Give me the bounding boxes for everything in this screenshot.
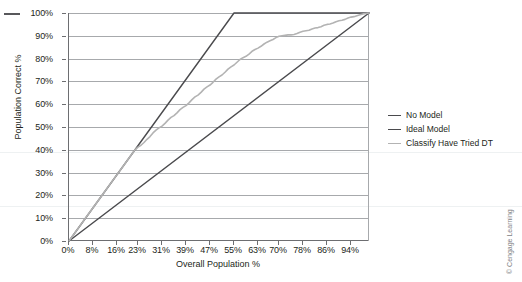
y-axis-tick-label: 60% xyxy=(1,100,53,109)
x-axis-tick-mark xyxy=(233,241,234,245)
y-axis-tick-mark xyxy=(62,173,66,174)
plot-area xyxy=(68,13,368,241)
y-axis-tick-mark xyxy=(62,81,66,82)
y-axis-tick-label: 10% xyxy=(1,214,53,223)
y-axis-tick-mark xyxy=(62,36,66,37)
y-axis-tick-mark xyxy=(62,59,66,60)
copyright-credit: © Cengage Learning xyxy=(506,164,514,274)
y-axis-tick-mark xyxy=(62,218,66,219)
legend-swatch-icon xyxy=(388,115,401,116)
y-axis-tick-mark xyxy=(62,104,66,105)
x-axis-tick-mark xyxy=(92,241,93,245)
chart-figure: 0%10%20%30%40%50%60%70%80%90%100% Popula… xyxy=(0,0,522,282)
legend-label: Classify Have Tried DT xyxy=(406,138,493,148)
x-axis-tick-label: 94% xyxy=(333,245,367,255)
x-axis-tick-mark xyxy=(257,241,258,245)
x-axis-tick-mark xyxy=(209,241,210,245)
legend-swatch-icon xyxy=(388,143,401,144)
x-axis-tick-mark xyxy=(185,241,186,245)
y-axis-title: Population Correct % xyxy=(13,27,23,167)
y-axis-tick-mark xyxy=(62,150,66,151)
y-axis-tick-mark xyxy=(62,13,66,14)
y-axis-tick-label: 50% xyxy=(1,123,53,132)
y-axis: 0%10%20%30%40%50%60%70%80%90%100% xyxy=(0,13,62,241)
legend-swatch-icon xyxy=(388,129,401,130)
y-axis-tick-label: 80% xyxy=(1,55,53,64)
chart-legend: No ModelIdeal ModelClassify Have Tried D… xyxy=(388,108,518,150)
y-axis-tick-label: 20% xyxy=(1,191,53,200)
y-axis-tick-label: 90% xyxy=(1,32,53,41)
plot-svg xyxy=(69,13,369,241)
legend-entry[interactable]: No Model xyxy=(388,108,518,122)
x-axis-tick-mark xyxy=(116,241,117,245)
y-axis-tick-label: 0% xyxy=(1,237,53,246)
x-axis-tick-mark xyxy=(68,241,69,245)
y-axis-tick-label: 70% xyxy=(1,77,53,86)
x-axis-tick-mark xyxy=(278,241,279,245)
legend-label: Ideal Model xyxy=(406,124,450,134)
y-axis-tick-mark xyxy=(62,241,66,242)
x-axis-tick-mark xyxy=(161,241,162,245)
x-axis-title: Overall Population % xyxy=(68,259,368,269)
y-axis-tick-mark xyxy=(62,195,66,196)
x-axis-tick-mark xyxy=(137,241,138,245)
x-axis-tick-mark xyxy=(350,241,351,245)
legend-entry[interactable]: Classify Have Tried DT xyxy=(388,136,518,150)
legend-entry[interactable]: Ideal Model xyxy=(388,122,518,136)
y-axis-tick-label: 40% xyxy=(1,146,53,155)
y-axis-tick-label: 30% xyxy=(1,169,53,178)
x-axis: 0%8%16%23%31%39%47%55%63%70%78%86%94% xyxy=(68,245,368,259)
y-axis-tick-mark xyxy=(62,127,66,128)
x-axis-tick-mark xyxy=(302,241,303,245)
legend-label: No Model xyxy=(406,110,442,120)
y-axis-tick-label: 100% xyxy=(1,9,53,18)
x-axis-tick-mark xyxy=(326,241,327,245)
